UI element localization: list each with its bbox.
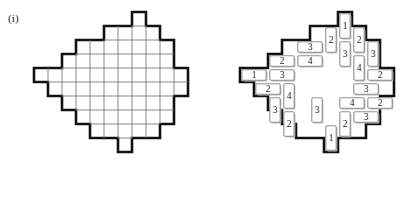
piece-number: 1 <box>343 21 348 31</box>
domino-piece[interactable]: 4 <box>284 84 296 110</box>
domino-piece[interactable]: 1 <box>340 14 352 40</box>
piece-number: 2 <box>280 56 285 66</box>
domino-piece[interactable]: 1 <box>326 126 338 152</box>
piece-number: 4 <box>350 98 355 108</box>
domino-piece[interactable]: 3 <box>270 98 282 124</box>
piece-number: 2 <box>266 84 271 94</box>
piece-number: 1 <box>329 133 334 143</box>
domino-piece[interactable]: 2 <box>270 56 296 68</box>
domino-piece[interactable]: 2 <box>368 98 394 110</box>
domino-piece[interactable]: 3 <box>354 84 380 96</box>
piece-number: 1 <box>252 70 257 80</box>
piece-number: 3 <box>273 105 278 115</box>
tiled-board-panel: 12233324413224333422231 <box>206 0 411 204</box>
piece-number: 3 <box>364 84 369 94</box>
domino-piece[interactable]: 3 <box>298 42 324 54</box>
domino-piece[interactable]: 4 <box>354 56 366 82</box>
domino-piece[interactable]: 3 <box>312 98 324 124</box>
piece-number: 3 <box>280 70 285 80</box>
piece-number: 2 <box>378 70 383 80</box>
domino-piece[interactable]: 2 <box>340 112 352 138</box>
domino-piece[interactable]: 2 <box>284 112 296 138</box>
piece-number: 4 <box>357 63 362 73</box>
piece-number: 3 <box>364 112 369 122</box>
board-outline <box>240 12 394 152</box>
figure-container: (i) 12233324413224333422231 <box>0 0 411 204</box>
piece-number: 3 <box>315 105 320 115</box>
piece-number: 4 <box>287 91 292 101</box>
domino-piece[interactable]: 2 <box>326 28 338 54</box>
domino-piece[interactable]: 3 <box>270 70 296 82</box>
domino-piece[interactable]: 3 <box>354 112 380 124</box>
domino-piece[interactable]: 1 <box>242 70 268 82</box>
domino-piece[interactable]: 2 <box>256 84 282 96</box>
piece-number: 3 <box>371 49 376 59</box>
piece-number: 4 <box>308 56 313 66</box>
domino-piece[interactable]: 3 <box>368 42 380 68</box>
piece-number: 2 <box>357 35 362 45</box>
domino-piece[interactable]: 2 <box>368 70 394 82</box>
piece-number: 2 <box>378 98 383 108</box>
domino-piece[interactable]: 2 <box>354 28 366 54</box>
blank-board-panel <box>0 0 206 204</box>
piece-number: 2 <box>329 35 334 45</box>
domino-piece[interactable]: 3 <box>340 42 352 68</box>
piece-number: 3 <box>308 42 313 52</box>
piece-number: 2 <box>287 119 292 129</box>
domino-piece[interactable]: 4 <box>340 98 366 110</box>
domino-piece[interactable]: 4 <box>298 56 324 68</box>
piece-number: 2 <box>343 119 348 129</box>
piece-number: 3 <box>343 49 348 59</box>
